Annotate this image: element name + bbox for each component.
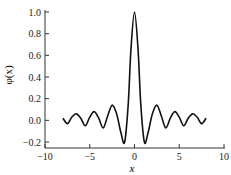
x-tick-label: 10 (219, 151, 229, 162)
axes (45, 10, 225, 148)
x-tick-label: 0 (132, 151, 137, 162)
data-line (63, 12, 206, 143)
chart: −0.20.00.20.40.60.81.0 −10−50510 x φ(x) (0, 0, 231, 175)
y-axis-label: φ(x) (2, 65, 15, 85)
y-tick-label: 0.6 (29, 50, 42, 61)
y-tick-label: 0.2 (29, 93, 42, 104)
y-tick-label: 0.4 (29, 72, 42, 83)
x-tick-label: −5 (84, 151, 95, 162)
x-axis-label: x (129, 162, 135, 174)
x-tick-label: −10 (37, 151, 53, 162)
y-tick-label: 1.0 (29, 7, 42, 18)
y-tick-label: −0.2 (23, 137, 41, 148)
x-tick-label: 5 (177, 151, 182, 162)
x-ticks: −10−50510 (37, 144, 229, 162)
y-tick-label: 0.0 (29, 115, 42, 126)
y-tick-label: 0.8 (29, 28, 42, 39)
